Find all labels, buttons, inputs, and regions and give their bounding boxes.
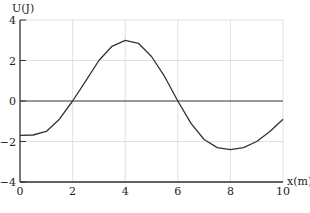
y-tick-label: −2 bbox=[0, 136, 16, 149]
y-axis-label: U(J) bbox=[12, 2, 34, 15]
potential-energy-curve bbox=[20, 40, 283, 149]
x-axis-label: x(m) bbox=[287, 175, 310, 188]
ticks: 420−2−40246810 bbox=[0, 14, 290, 198]
energy-chart: 420−2−40246810 U(J) x(m) bbox=[0, 0, 310, 213]
x-tick-label: 4 bbox=[122, 185, 129, 198]
y-tick-label: 2 bbox=[9, 55, 16, 68]
y-tick-label: 4 bbox=[9, 14, 16, 27]
x-tick-label: 6 bbox=[174, 185, 181, 198]
axes bbox=[20, 20, 283, 182]
x-tick-label: 0 bbox=[17, 185, 24, 198]
x-tick-label: 8 bbox=[227, 185, 234, 198]
y-tick-label: 0 bbox=[9, 95, 16, 108]
y-tick-label: −4 bbox=[0, 176, 16, 189]
x-tick-label: 2 bbox=[69, 185, 76, 198]
